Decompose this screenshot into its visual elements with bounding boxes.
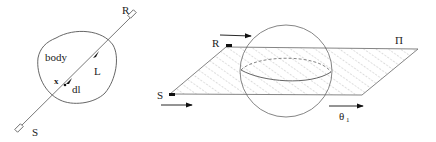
- label-theta: θ: [339, 110, 344, 122]
- diagram-canvas: body L x dl R S R S Π θ 1: [0, 0, 436, 142]
- right-panel: R S Π θ 1: [157, 25, 418, 124]
- label-x: x: [54, 76, 59, 86]
- label-S-right: S: [157, 89, 163, 101]
- r-arrow-icon: [220, 35, 251, 36]
- plane-pi: [170, 47, 418, 95]
- source-marker-right: [169, 93, 175, 96]
- label-S-left: S: [32, 126, 38, 138]
- label-R-left: R: [122, 4, 130, 16]
- receiver-marker-right: [226, 44, 232, 47]
- label-pi: Π: [395, 34, 403, 46]
- label-dl: dl: [72, 83, 81, 95]
- source-marker: [15, 124, 23, 132]
- label-body: body: [45, 51, 68, 63]
- label-theta-sub: 1: [346, 116, 350, 124]
- label-L: L: [94, 65, 101, 77]
- left-panel: body L x dl R S: [15, 4, 136, 138]
- x-point: [64, 84, 67, 87]
- label-R-right: R: [212, 37, 220, 49]
